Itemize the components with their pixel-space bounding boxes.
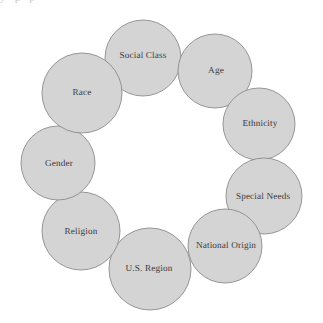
circle-us-region — [109, 228, 191, 310]
circle-ethnicity — [223, 88, 295, 160]
diversity-dimensions-ring-diagram: y p p Social ClassAgeEthnicitySpecial Ne… — [0, 0, 323, 323]
circle-race — [42, 53, 122, 133]
circle-religion — [42, 192, 120, 270]
circle-gender — [21, 126, 95, 200]
circle-national-origin — [188, 209, 262, 283]
circle-ring-graphic — [0, 0, 323, 323]
circles-group — [21, 20, 302, 310]
